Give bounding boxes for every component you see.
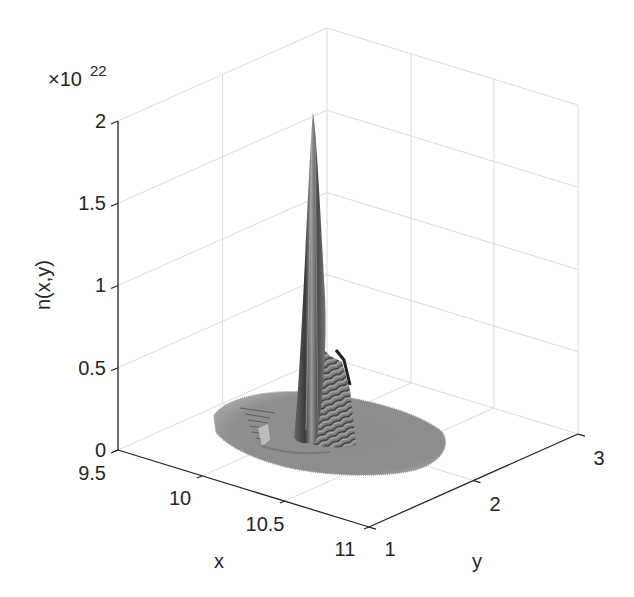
x-tick-labels: 9.5 10 10.5 11 [78, 462, 355, 560]
z-ticks [111, 121, 118, 453]
svg-text:2: 2 [489, 493, 500, 515]
svg-text:11: 11 [335, 538, 356, 560]
svg-text:10.5: 10.5 [246, 513, 285, 535]
grid-back-wall [327, 28, 578, 434]
grid-left-wall [118, 28, 327, 450]
z-multiplier: ×10 22 [48, 62, 107, 90]
svg-text:×10: ×10 [48, 68, 82, 90]
x-axis-label: x [214, 550, 224, 572]
surface-plot-figure: 0 0.5 1 1.5 2 ×10 22 9.5 10 10.5 11 1 2 … [0, 0, 634, 597]
svg-text:1.5: 1.5 [78, 192, 106, 214]
z-tick-labels: 0 0.5 1 1.5 2 [78, 110, 106, 461]
surface-peak [294, 112, 326, 443]
svg-text:0.5: 0.5 [78, 357, 106, 379]
svg-text:1: 1 [95, 274, 106, 296]
svg-text:9.5: 9.5 [78, 462, 106, 484]
svg-text:22: 22 [90, 62, 107, 79]
svg-text:2: 2 [95, 110, 106, 132]
y-axis-label: y [472, 550, 482, 572]
svg-text:1: 1 [384, 538, 395, 560]
svg-text:10: 10 [169, 487, 191, 509]
z-axis-label: n(x,y) [32, 260, 54, 310]
svg-text:3: 3 [593, 447, 604, 469]
svg-text:0: 0 [95, 439, 106, 461]
